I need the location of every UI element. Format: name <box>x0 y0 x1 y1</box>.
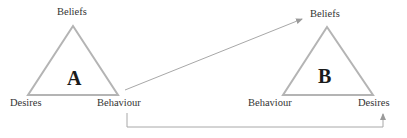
diagram-canvas <box>0 0 407 138</box>
triangle-a-bottom-left-label: Desires <box>10 97 42 108</box>
triangle-b-letter: B <box>318 65 331 88</box>
triangle-a-bottom-right-label: Behaviour <box>97 97 141 108</box>
triangle-b-bottom-left-label: Behaviour <box>248 97 292 108</box>
arrow-behaviour-to-beliefs <box>125 19 302 90</box>
triangle-b-bottom-right-label: Desires <box>358 97 390 108</box>
triangle-b-top-label: Beliefs <box>310 8 340 19</box>
arrow-behaviour-to-desires <box>127 113 383 127</box>
triangle-a-top-label: Beliefs <box>57 6 87 17</box>
triangle-a-letter: A <box>67 67 81 90</box>
